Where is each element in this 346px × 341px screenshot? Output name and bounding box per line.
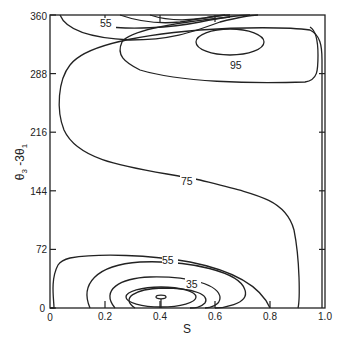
x-tick-label: 0.4 xyxy=(153,311,167,322)
x-tick-label: 1.0 xyxy=(318,311,332,322)
contour-label: 35 xyxy=(186,278,198,290)
contour-label: 55 xyxy=(100,17,112,29)
contour-line-75 xyxy=(59,28,322,308)
y-tick-label: 360 xyxy=(30,11,47,22)
x-axis-label: S xyxy=(183,322,191,336)
y-tick-label: 144 xyxy=(30,186,47,197)
y-axis-label: θ3 -3θ1 xyxy=(13,143,29,180)
contour-line-45 xyxy=(110,277,220,308)
contour-line-95 xyxy=(196,29,264,55)
contour-label: 95 xyxy=(230,59,242,71)
y-tick-label: 216 xyxy=(30,127,47,138)
contour-label: 75 xyxy=(181,175,193,187)
contour-minimum xyxy=(156,295,166,299)
y-tick-label: 72 xyxy=(36,244,48,255)
contour-line-65-bottom xyxy=(50,255,270,308)
contour-lines xyxy=(50,15,322,308)
x-tick-label: 0.2 xyxy=(98,311,112,322)
y-tick-label: 288 xyxy=(30,69,47,80)
x-tick-label: 0 xyxy=(47,312,53,323)
contour-label: 55 xyxy=(162,254,174,266)
contour-line-85 xyxy=(120,17,318,83)
y-tick-label: 0 xyxy=(39,303,45,314)
contour-labels: 55 95 75 55 35 xyxy=(100,17,245,290)
x-tick-label: 0.6 xyxy=(208,311,222,322)
contour-chart: 0 72 144 216 288 360 0 0.2 0.4 0.6 0.8 1… xyxy=(0,0,346,341)
x-tick-label: 0.8 xyxy=(263,311,277,322)
y-tick-labels: 0 72 144 216 288 360 xyxy=(30,11,47,314)
